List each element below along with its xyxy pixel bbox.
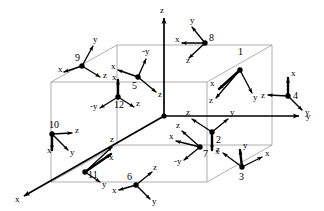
- frame-7-axis-negy-label: -y: [174, 156, 182, 166]
- frame-10-axis-z: [52, 133, 72, 134]
- z-axis-label: z: [160, 5, 164, 15]
- frame-6-axis-y: [136, 185, 150, 199]
- frame-2-axis-y: [212, 119, 228, 132]
- frame-3-axis-z: [223, 153, 242, 167]
- frame-9-axis-x: [64, 66, 82, 72]
- global-axes: zyx: [15, 5, 311, 204]
- local-frames: xzy1zyx2yzx3xzy4-yxz5zxy6zx-y7yxz8yxz9zx…: [47, 15, 310, 206]
- frame-6-axis-x-label: x: [112, 185, 117, 195]
- frame-6: zxy6: [112, 162, 157, 206]
- frame-3-origin-dot: [239, 164, 244, 169]
- frame-10-origin-dot: [49, 131, 54, 136]
- frame-8: yxz8: [175, 15, 214, 65]
- frame-5-axis-z: [138, 77, 156, 92]
- frame-2-axis-z: [192, 119, 212, 132]
- frame-12-number-label: 12: [114, 99, 124, 110]
- frame-5-number-label: 5: [132, 80, 137, 91]
- frame-5-axis-x-label: x: [111, 61, 116, 71]
- frame-5-axis-z-label: z: [158, 89, 162, 99]
- frame-1-axis-y-label: y: [253, 92, 258, 102]
- frame-9-origin-dot: [79, 63, 84, 68]
- frame-8-axis-z-label: z: [186, 55, 190, 65]
- frame-1-number-label: 1: [238, 46, 243, 57]
- frame-1-axis-z: [216, 70, 240, 98]
- frame-11-axis-y-label: y: [102, 179, 107, 189]
- frame-12-axis-z-label: z: [136, 98, 140, 108]
- frame-10-number-label: 10: [49, 119, 59, 130]
- frame-4-origin-dot: [285, 93, 290, 98]
- frame-3-axis-y-label: y: [243, 140, 248, 150]
- frame-3-axis-z-label: z: [216, 144, 220, 154]
- frame-7-number-label: 7: [203, 148, 208, 159]
- frame-10: zxy10: [47, 119, 79, 157]
- frame-8-axis-y: [192, 27, 205, 43]
- frame-9-axis-y: [82, 46, 93, 66]
- frame-7-axis-z-label: z: [176, 120, 180, 130]
- x-axis: [24, 116, 164, 196]
- frame-1-axis-y: [240, 70, 252, 93]
- frame-6-number-label: 6: [127, 171, 132, 182]
- frame-4-axis-y-label: y: [305, 107, 310, 117]
- frame-5-axis-negy-label: -y: [142, 46, 150, 56]
- frame-5-origin-dot: [135, 74, 140, 79]
- frame-3-axis-x-label: x: [265, 148, 270, 158]
- frame-6-axis-y-label: y: [152, 196, 157, 206]
- frame-9-number-label: 9: [75, 52, 80, 63]
- frame-10-axis-z-label: z: [75, 125, 79, 135]
- frame-3-number-label: 3: [239, 171, 244, 182]
- frame-8-axis-y-label: y: [190, 15, 195, 25]
- frame-8-axis-x-label: x: [175, 34, 180, 44]
- frame-11-number-label: 11: [88, 169, 98, 180]
- x-axis-label: x: [15, 194, 20, 204]
- frame-11-axis-x-label: x: [109, 152, 114, 162]
- frame-2-axis-y-label: y: [230, 107, 235, 117]
- frame-6-axis-z-label: z: [153, 162, 157, 172]
- frame-9-axis-z-label: z: [103, 70, 107, 80]
- frame-3-axis-x: [242, 157, 262, 167]
- frame-12-axis-negy-label: -y: [90, 101, 98, 111]
- frame-6-origin-dot: [133, 182, 138, 187]
- frame-9: yxz9: [58, 34, 107, 80]
- frame-7-axis-negy: [184, 147, 200, 160]
- frame-6-axis-z: [136, 172, 152, 185]
- frame-9-axis-x-label: x: [58, 64, 63, 74]
- frame-11-axis-z-label: z: [110, 134, 114, 144]
- frame-9-axis-z: [82, 66, 100, 77]
- frame-7: zx-y7: [169, 120, 208, 166]
- frame-10-axis-y-label: y: [70, 147, 75, 157]
- frame-7-origin-dot: [197, 144, 202, 149]
- frame-4-axis-x-label: x: [291, 68, 296, 78]
- frame-5-axis-negy: [138, 59, 146, 77]
- global-origin-dot: [161, 113, 166, 118]
- frame-7-axis-x-label: x: [169, 131, 174, 141]
- frame-4-axis-z: [268, 95, 288, 96]
- diagram-canvas: zyx xzy1zyx2yzx3xzy4-yxz5zxy6zx-y7yxz8yx…: [0, 0, 324, 211]
- frame-10-axis-x-label: x: [47, 145, 52, 155]
- frame-12: x-yz12: [90, 72, 140, 111]
- frame-1-origin-dot: [237, 67, 242, 72]
- box-edge-bottom-left: [51, 145, 117, 182]
- frame-1: xzy1: [209, 46, 258, 105]
- frame-4: xzy4: [261, 68, 310, 117]
- frame-8-number-label: 8: [209, 32, 214, 43]
- frame-11-origin-dot: [82, 169, 87, 174]
- frame-4-axis-z-label: z: [261, 90, 265, 100]
- frame-1-axis-x-label: x: [210, 78, 215, 88]
- frame-8-origin-dot: [202, 40, 207, 45]
- frame-3: yzx3: [216, 140, 270, 182]
- frame-12-axis-x-label: x: [112, 72, 117, 82]
- frame-9-axis-y-label: y: [93, 34, 98, 44]
- frame-4-number-label: 4: [293, 90, 298, 101]
- frame-10-axis-y: [52, 134, 68, 150]
- coordinate-frames-diagram: zyx xzy1zyx2yzx3xzy4-yxz5zxy6zx-y7yxz8yx…: [0, 0, 324, 211]
- frame-2-axis-z-label: z: [186, 107, 190, 117]
- frame-1-axis-z-label: z: [209, 95, 213, 105]
- frame-2: zyx2: [186, 107, 235, 156]
- frame-5-axis-x: [118, 70, 138, 77]
- frame-2-origin-dot: [209, 129, 214, 134]
